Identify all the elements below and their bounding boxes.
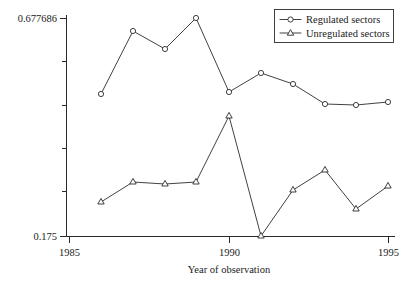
chart-legend: Regulated sectors Unregulated sectors	[275, 10, 394, 43]
x-axis-title: Year of observation	[188, 264, 271, 275]
data-point-unregulated-1987	[130, 178, 136, 184]
data-point-unregulated-1992	[290, 186, 296, 192]
legend-label-unregulated: Unregulated sectors	[306, 28, 390, 39]
data-point-regulated-1986	[98, 91, 103, 96]
chart-container: Regulated sectors Unregulated sectors 0.…	[0, 0, 405, 290]
data-point-regulated-1988	[162, 46, 167, 51]
data-point-unregulated-1988	[162, 180, 168, 186]
data-point-unregulated-1995	[385, 182, 391, 188]
data-point-unregulated-1989	[193, 178, 199, 184]
data-point-regulated-1995	[385, 99, 390, 104]
legend-label-regulated: Regulated sectors	[306, 14, 380, 25]
data-point-unregulated-1986	[98, 198, 104, 204]
x-tick-label-1990: 1990	[219, 247, 240, 258]
data-point-regulated-1994	[353, 102, 358, 107]
y-tick-label-bottom: 0.175	[33, 231, 57, 242]
data-point-regulated-1990	[226, 89, 231, 94]
data-point-regulated-1991	[258, 70, 263, 75]
data-point-regulated-1987	[130, 28, 135, 33]
x-tick-label-1985: 1985	[59, 247, 80, 258]
data-point-unregulated-1990	[226, 112, 232, 118]
x-tick-label-1995: 1995	[378, 247, 399, 258]
circle-marker-icon	[288, 17, 293, 22]
data-point-unregulated-1993	[322, 166, 328, 172]
y-tick-label-top: 0.677686	[18, 13, 57, 24]
data-point-regulated-1993	[322, 101, 327, 106]
data-point-regulated-1989	[193, 15, 198, 20]
data-point-regulated-1992	[290, 81, 295, 86]
series-line-unregulated-sectors	[101, 116, 388, 236]
chart-plot-svg: Regulated sectors Unregulated sectors 0.…	[0, 0, 405, 290]
